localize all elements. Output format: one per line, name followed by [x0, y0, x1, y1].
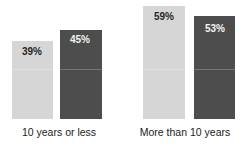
category-label-0: 10 years or less — [0, 126, 118, 139]
plot-area: 39% 45% 59% 53% — [0, 0, 246, 119]
bar-value-group0-light: 39% — [22, 46, 42, 57]
bar-chart: 39% 45% 59% 53% 10 years or less More th… — [0, 0, 246, 149]
bar-value-group1-dark: 53% — [205, 23, 225, 34]
bar-value-group1-light: 59% — [154, 11, 174, 22]
bar-value-group0-dark: 45% — [70, 34, 90, 45]
bar-group1-light[interactable] — [143, 6, 185, 119]
category-label-1: More than 10 years — [124, 126, 246, 139]
